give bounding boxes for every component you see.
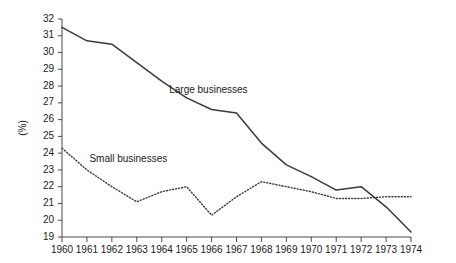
- y-tick-label: 24: [43, 147, 55, 158]
- y-tick-label: 30: [43, 46, 55, 57]
- series-label-large-businesses: Large businesses: [169, 84, 247, 95]
- chart-canvas: 1920212223242526272829303132 19601961196…: [0, 0, 456, 263]
- y-tick-label: 23: [43, 164, 55, 175]
- y-tick-label: 20: [43, 214, 55, 225]
- x-tick-label: 1968: [250, 244, 273, 255]
- series-label-small-businesses: Small businesses: [89, 153, 167, 164]
- y-tick-label: 31: [43, 29, 55, 40]
- y-tick-marks: [58, 19, 62, 237]
- x-tick-label: 1972: [350, 244, 373, 255]
- x-tick-label: 1970: [300, 244, 323, 255]
- axis-lines: [62, 19, 411, 237]
- axes-group: [58, 19, 411, 242]
- x-tick-label: 1965: [176, 244, 199, 255]
- x-tick-label: 1964: [151, 244, 174, 255]
- x-tick-label: 1971: [325, 244, 348, 255]
- x-tick-label: 1961: [76, 244, 99, 255]
- x-tick-label: 1966: [200, 244, 223, 255]
- series-annotations: Large businessesSmall businesses: [89, 84, 247, 164]
- y-tick-label: 28: [43, 80, 55, 91]
- x-tick-label: 1973: [375, 244, 398, 255]
- x-tick-label: 1962: [101, 244, 124, 255]
- x-tick-label: 1967: [225, 244, 248, 255]
- data-series-group: [62, 27, 411, 232]
- y-tick-label: 22: [43, 180, 55, 191]
- line-chart: 1920212223242526272829303132 19601961196…: [0, 0, 456, 263]
- x-tick-label: 1963: [126, 244, 149, 255]
- x-tick-label: 1969: [275, 244, 298, 255]
- series-line-large-businesses: [62, 27, 411, 232]
- y-tick-label: 27: [43, 96, 55, 107]
- y-axis-tick-labels: 1920212223242526272829303132: [43, 13, 55, 242]
- x-tick-marks: [62, 237, 411, 242]
- x-tick-label: 1960: [51, 244, 74, 255]
- y-tick-label: 25: [43, 130, 55, 141]
- y-tick-label: 29: [43, 63, 55, 74]
- x-tick-label: 1974: [400, 244, 423, 255]
- y-tick-label: 21: [43, 197, 55, 208]
- y-tick-label: 19: [43, 231, 55, 242]
- y-tick-label: 32: [43, 13, 55, 24]
- y-tick-label: 26: [43, 113, 55, 124]
- x-axis-tick-labels: 1960196119621963196419651966196719681969…: [51, 244, 423, 255]
- y-axis-title: (%): [17, 120, 28, 136]
